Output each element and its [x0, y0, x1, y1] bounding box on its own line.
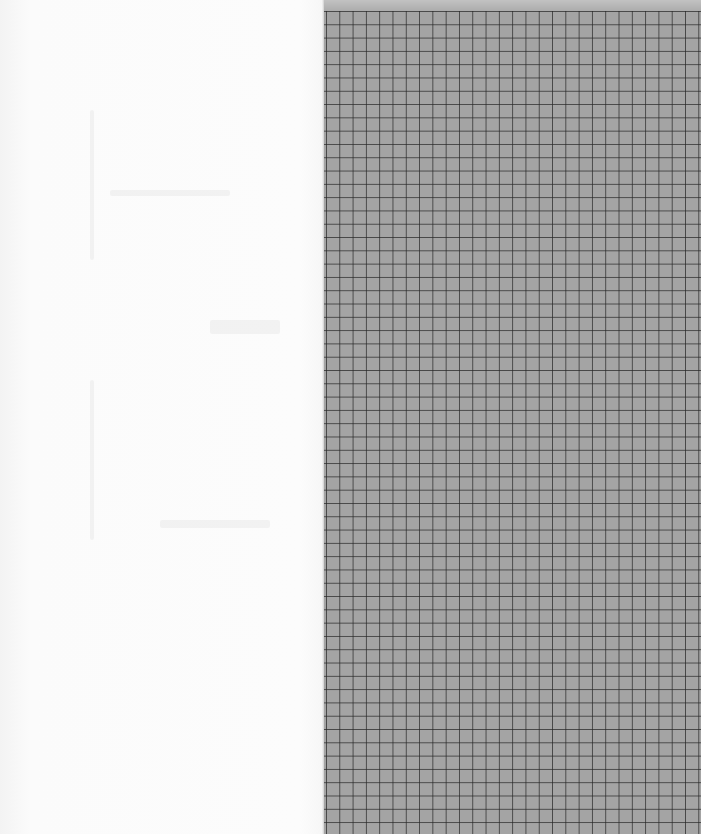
bleed-through-mark [160, 520, 270, 528]
square-grid [324, 11, 701, 834]
notebook-spread [0, 0, 701, 834]
bleed-through-mark [90, 110, 94, 260]
bleed-through-mark [90, 380, 94, 540]
bleed-through-mark [210, 320, 280, 334]
bleed-through-mark [110, 190, 230, 196]
page-top-margin [324, 0, 701, 11]
graph-paper-page [324, 0, 701, 834]
blank-left-page [0, 0, 324, 834]
